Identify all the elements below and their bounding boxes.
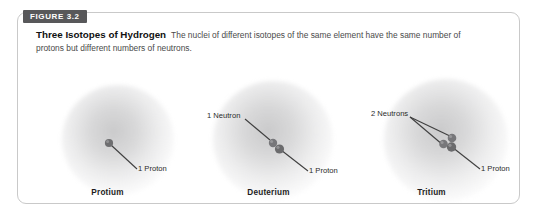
proton-particle-icon bbox=[447, 142, 456, 151]
proton-highlight-icon bbox=[448, 144, 451, 147]
isotope-name-deuterium: Deuterium bbox=[185, 188, 352, 197]
neutron-particle-icon bbox=[439, 140, 448, 149]
neutron-highlight-icon bbox=[441, 141, 444, 144]
proton-highlight-icon bbox=[276, 146, 279, 149]
isotope-row: 1 Proton Protium 1 Neutron 1 Proton Deut… bbox=[18, 59, 519, 203]
label-proton: 1 Proton bbox=[481, 164, 510, 173]
label-proton: 1 Proton bbox=[309, 166, 338, 175]
isotope-name-tritium: Tritium bbox=[348, 188, 515, 197]
deuterium-nucleus-diagram bbox=[185, 59, 352, 203]
figure-title: Three Isotopes of Hydrogen bbox=[36, 29, 166, 40]
figure-number-tab: FIGURE 3.2 bbox=[23, 10, 87, 23]
leader-line-proton bbox=[111, 145, 137, 169]
neutron-particle-icon bbox=[448, 134, 457, 143]
figure-caption: Three Isotopes of HydrogenThe nuclei of … bbox=[36, 29, 476, 54]
proton-particle-icon bbox=[275, 144, 284, 153]
isotope-tritium: 2 Neutrons 1 Proton Tritium bbox=[348, 59, 515, 203]
proton-highlight-icon bbox=[106, 140, 109, 143]
leader-line-neutron bbox=[245, 119, 270, 140]
leader-line-neutron-a bbox=[410, 117, 443, 145]
neutron-highlight-icon bbox=[449, 135, 452, 138]
neutron-highlight-icon bbox=[270, 140, 273, 143]
leader-line-proton bbox=[281, 150, 308, 171]
isotope-protium: 1 Proton Protium bbox=[24, 59, 191, 203]
figure-number-label: FIGURE 3.2 bbox=[30, 12, 80, 21]
protium-nucleus-diagram bbox=[24, 59, 191, 203]
figure-root: Three Isotopes of HydrogenThe nuclei of … bbox=[0, 0, 537, 221]
isotope-name-protium: Protium bbox=[24, 188, 191, 197]
leader-line-proton bbox=[452, 147, 480, 169]
label-neutrons: 2 Neutrons bbox=[371, 109, 408, 118]
isotope-deuterium: 1 Neutron 1 Proton Deuterium bbox=[185, 59, 352, 203]
figure-panel: Three Isotopes of HydrogenThe nuclei of … bbox=[17, 12, 520, 204]
label-neutron: 1 Neutron bbox=[207, 111, 240, 120]
tritium-nucleus-diagram bbox=[348, 59, 515, 203]
proton-particle-icon bbox=[105, 139, 113, 147]
label-proton: 1 Proton bbox=[138, 164, 167, 173]
leader-line-neutron-b bbox=[410, 117, 452, 137]
neutron-particle-icon bbox=[269, 139, 277, 147]
